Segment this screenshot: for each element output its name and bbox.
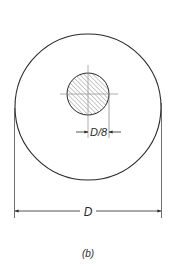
figure-caption: (b) (82, 248, 94, 259)
circular-disk-diagram: D/8 D (b) (0, 0, 169, 268)
dimension-label-large: D (84, 205, 93, 219)
dimension-label-small: D/8 (90, 126, 108, 138)
